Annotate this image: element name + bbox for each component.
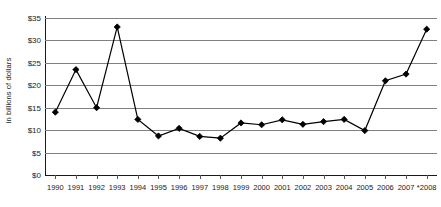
y-axis-tick-labels: $0$5$10$15$20$25$30$35 <box>18 0 44 207</box>
x-tick <box>262 175 263 179</box>
x-tick <box>324 175 325 179</box>
data-point-marker <box>382 78 388 84</box>
x-tick <box>365 175 366 179</box>
x-tick-label: 2003 <box>315 183 332 192</box>
y-axis-title: in billions of dollars <box>0 0 18 180</box>
data-point-marker <box>114 24 120 30</box>
x-tick-label: 2007 <box>398 183 415 192</box>
x-axis-tick-labels: 1990199119921993199419951996199719981999… <box>45 183 437 199</box>
x-tick <box>344 175 345 179</box>
x-tick <box>385 175 386 179</box>
data-point-marker <box>362 127 368 133</box>
x-tick <box>427 175 428 179</box>
x-tick-label: 2000 <box>253 183 270 192</box>
x-tick <box>241 175 242 179</box>
x-tick <box>282 175 283 179</box>
x-tick <box>76 175 77 179</box>
x-tick-label: 1995 <box>150 183 167 192</box>
x-tick-label: 2005 <box>356 183 373 192</box>
y-tick-label: $15 <box>28 103 41 112</box>
x-tick <box>117 175 118 179</box>
plot-area <box>45 18 437 175</box>
data-point-marker <box>403 71 409 77</box>
x-tick-label: 1998 <box>212 183 229 192</box>
y-tick-label: $25 <box>28 58 41 67</box>
data-point-marker <box>52 109 58 115</box>
y-tick-label: $35 <box>28 14 41 23</box>
x-tick <box>220 175 221 179</box>
data-point-marker <box>73 66 79 72</box>
x-tick-label: 1996 <box>171 183 188 192</box>
data-point-marker <box>279 117 285 123</box>
x-axis-ticks <box>45 175 437 181</box>
x-tick <box>55 175 56 179</box>
y-tick-label: $30 <box>28 36 41 45</box>
x-tick <box>200 175 201 179</box>
x-tick <box>406 175 407 179</box>
y-tick-label: $10 <box>28 126 41 135</box>
data-point-marker <box>320 119 326 125</box>
x-tick-label: 2001 <box>274 183 291 192</box>
data-series <box>45 18 437 175</box>
data-point-marker <box>424 26 430 32</box>
y-tick-label: $0 <box>32 171 41 180</box>
x-tick-label: 2004 <box>336 183 353 192</box>
x-tick-label: 1990 <box>47 183 64 192</box>
data-point-marker <box>341 116 347 122</box>
x-tick <box>303 175 304 179</box>
data-point-marker <box>176 125 182 131</box>
x-tick <box>179 175 180 179</box>
x-tick <box>97 175 98 179</box>
x-tick-label: 1993 <box>109 183 126 192</box>
data-point-marker <box>300 121 306 127</box>
x-tick-label: 1999 <box>233 183 250 192</box>
y-tick-label: $5 <box>32 148 41 157</box>
x-tick-label: 1992 <box>88 183 105 192</box>
x-tick-label: *2008 <box>417 183 437 192</box>
y-axis-title-label: in billions of dollars <box>5 57 14 123</box>
data-point-marker <box>197 133 203 139</box>
x-tick <box>138 175 139 179</box>
x-tick-label: 1994 <box>129 183 146 192</box>
x-tick-label: 2002 <box>295 183 312 192</box>
data-point-marker <box>93 105 99 111</box>
line-chart: in billions of dollars $0$5$10$15$20$25$… <box>0 0 441 207</box>
x-tick-label: 1991 <box>68 183 85 192</box>
x-tick <box>158 175 159 179</box>
data-point-marker <box>259 122 265 128</box>
y-tick-label: $20 <box>28 81 41 90</box>
x-tick-label: 1997 <box>191 183 208 192</box>
x-tick-label: 2006 <box>377 183 394 192</box>
